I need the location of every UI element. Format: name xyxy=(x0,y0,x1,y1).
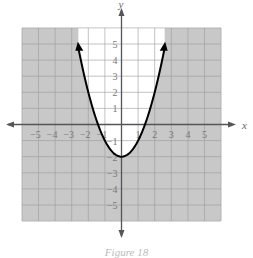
svg-text:−4: −4 xyxy=(47,129,58,140)
svg-text:1: 1 xyxy=(113,103,118,114)
svg-text:4: 4 xyxy=(113,55,118,66)
svg-text:−4: −4 xyxy=(107,184,118,195)
svg-text:x: x xyxy=(241,119,247,131)
svg-text:3: 3 xyxy=(169,129,174,140)
svg-text:5: 5 xyxy=(202,129,207,140)
svg-text:−2: −2 xyxy=(107,152,118,163)
svg-text:2: 2 xyxy=(152,129,157,140)
svg-text:5: 5 xyxy=(113,39,118,50)
svg-text:−3: −3 xyxy=(107,168,118,179)
svg-text:−3: −3 xyxy=(63,129,74,140)
svg-text:2: 2 xyxy=(113,87,118,98)
svg-text:−5: −5 xyxy=(107,200,118,211)
svg-text:3: 3 xyxy=(113,71,118,82)
svg-text:4: 4 xyxy=(185,129,190,140)
figure-caption: Figure 18 xyxy=(0,246,253,258)
svg-text:y: y xyxy=(118,0,124,10)
svg-text:−5: −5 xyxy=(30,129,41,140)
svg-text:−2: −2 xyxy=(80,129,91,140)
